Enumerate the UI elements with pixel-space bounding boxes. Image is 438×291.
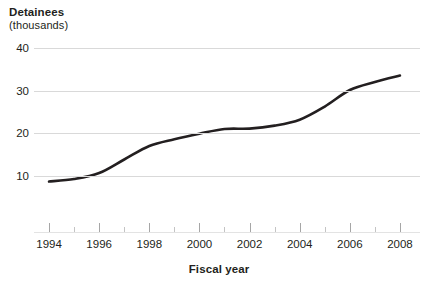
x-tick-label: 2008 bbox=[387, 238, 413, 250]
x-tick-major bbox=[300, 223, 301, 232]
x-tick-label: 2006 bbox=[337, 238, 363, 250]
x-axis-title: Fiscal year bbox=[0, 263, 438, 275]
footnote-text bbox=[186, 284, 436, 291]
x-tick-minor bbox=[275, 227, 276, 232]
plot-area: 10203040 bbox=[34, 40, 420, 218]
y-tick-label: 40 bbox=[16, 42, 29, 54]
x-tick-major bbox=[350, 223, 351, 232]
y-axis-units: (thousands) bbox=[9, 19, 68, 31]
x-tick-minor bbox=[124, 227, 125, 232]
x-tick-major bbox=[199, 223, 200, 232]
gridline: 30 bbox=[34, 91, 420, 92]
x-tick-minor bbox=[224, 227, 225, 232]
y-tick-label: 30 bbox=[16, 85, 29, 97]
data-series-line bbox=[34, 40, 420, 218]
chart-title: Detainees bbox=[9, 6, 68, 19]
y-tick-label: 20 bbox=[16, 127, 29, 139]
x-tick-major bbox=[99, 223, 100, 232]
x-tick-major bbox=[149, 223, 150, 232]
x-tick-label: 1994 bbox=[36, 238, 62, 250]
gridline: 10 bbox=[34, 176, 420, 177]
x-tick-minor bbox=[74, 227, 75, 232]
line-chart: Detainees (thousands) 10203040 199419961… bbox=[0, 0, 438, 291]
x-tick-label: 2000 bbox=[187, 238, 213, 250]
x-tick-label: 1998 bbox=[137, 238, 163, 250]
gridline: 20 bbox=[34, 133, 420, 134]
x-tick-minor bbox=[375, 227, 376, 232]
x-tick-minor bbox=[325, 227, 326, 232]
gridline: 40 bbox=[34, 48, 420, 49]
x-tick-label: 2002 bbox=[237, 238, 263, 250]
x-tick-major bbox=[49, 223, 50, 232]
y-tick-label: 10 bbox=[16, 170, 29, 182]
y-axis-title-block: Detainees (thousands) bbox=[9, 6, 68, 31]
x-tick-label: 2004 bbox=[287, 238, 313, 250]
x-axis: 19941996199820002002200420062008 bbox=[34, 232, 420, 233]
x-tick-major bbox=[250, 223, 251, 232]
x-tick-minor bbox=[174, 227, 175, 232]
x-tick-major bbox=[400, 223, 401, 232]
x-tick-label: 1996 bbox=[86, 238, 112, 250]
